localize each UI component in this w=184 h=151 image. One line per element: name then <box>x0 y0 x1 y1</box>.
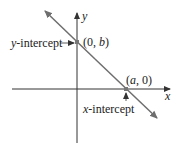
y-intercept-annotation: y-intercept <box>10 36 63 50</box>
y-axis-label: y <box>81 9 88 23</box>
y-intercept-point <box>75 40 79 44</box>
x-intercept-point-label: (a, 0) <box>126 73 152 87</box>
x-intercept-annotation: x-intercept <box>82 102 135 116</box>
y-intercept-point-label: (0, b) <box>83 35 109 49</box>
x-intercept-point <box>124 87 128 91</box>
x-axis-label: x <box>164 89 171 103</box>
intercepts-diagram: y x y-intercept (0, b) (a, 0) x-intercep… <box>0 0 184 151</box>
